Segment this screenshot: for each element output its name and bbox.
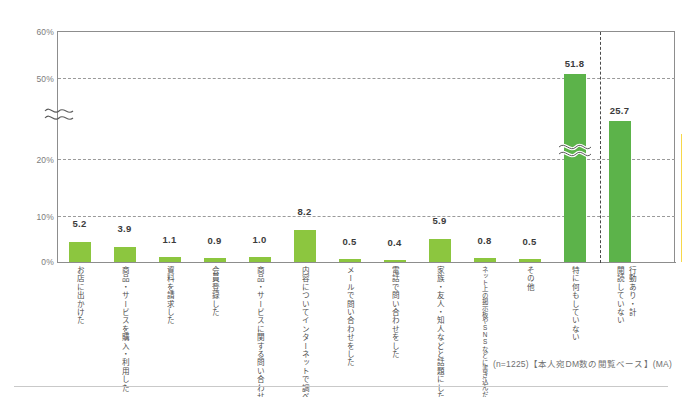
category-text-3: 会員登録した	[210, 266, 220, 316]
bottom-divider	[14, 386, 668, 387]
bar-slot-7[interactable]: 0.4	[372, 31, 417, 262]
footnote: (n=1225)【本人宛DM数の閲覧ベース】(MA)	[493, 357, 672, 369]
bar-2[interactable]	[159, 257, 181, 262]
bar-4[interactable]	[249, 257, 271, 262]
category-text-9: ネット上の掲示板やSNSなどに書き込んだ（FacebookやTwitterなど）	[480, 266, 488, 397]
bar-slot-8[interactable]: 5.9	[417, 31, 462, 262]
bar-value-3: 0.9	[208, 235, 222, 246]
category-label-1: 商品・サービスを購入・利用した	[102, 266, 147, 366]
chart-container: 60% 50% 20% 10% 0% 5.2 3.9 1.1	[0, 0, 682, 397]
bar-group: 5.2 3.9 1.1 0.9 1.0 8.2 0.5 0.4	[57, 31, 675, 262]
bar-value-8: 5.9	[433, 215, 447, 226]
category-text-11: 特に何もしていない	[570, 266, 580, 342]
x-axis-baseline	[57, 262, 676, 263]
bar-7[interactable]	[384, 260, 406, 262]
category-text-10: その他	[525, 266, 535, 291]
bar-value-5: 8.2	[298, 206, 312, 217]
category-label-10: その他	[507, 266, 552, 366]
bar-value-0: 5.2	[73, 218, 87, 229]
bar-0[interactable]	[69, 242, 91, 262]
category-text-4: 商品・サービスに関する問い合わせをした	[255, 266, 265, 397]
bar-value-6: 0.5	[343, 236, 357, 247]
bar-slot-11[interactable]: 51.8	[552, 31, 597, 262]
bar-value-11: 51.8	[565, 58, 584, 69]
category-text-8: 家族・友人・知人などと話題にした	[435, 266, 445, 397]
y-tick-60-label: 60%	[2, 27, 54, 37]
bar-10[interactable]	[519, 259, 541, 262]
bar-slot-4[interactable]: 1.0	[237, 31, 282, 262]
y-tick-20-label: 20%	[2, 155, 54, 165]
bar-value-4: 1.0	[253, 234, 267, 245]
category-label-7: 電話で問い合わせをした	[372, 266, 417, 366]
category-label-3: 会員登録した	[192, 266, 237, 366]
bar-value-9: 0.8	[478, 235, 492, 246]
category-text-1: 商品・サービスを購入・利用した	[120, 266, 130, 392]
category-label-5: 内容についてインターネットで調べた	[282, 266, 327, 366]
category-label-11: 特に何もしていない	[552, 266, 597, 366]
bar-slot-9[interactable]: 0.8	[462, 31, 507, 262]
category-label-9: ネット上の掲示板やSNSなどに書き込んだ（FacebookやTwitterなど）	[462, 266, 507, 366]
category-text-13: 行動あり・計	[627, 266, 637, 316]
bar-1[interactable]	[114, 247, 136, 262]
category-labels: お店に出かけた 商品・サービスを購入・利用した 資料を請求した 会員登録した 商…	[57, 266, 675, 366]
category-label-0: お店に出かけた	[57, 266, 102, 366]
bar-value-7: 0.4	[388, 237, 402, 248]
bar-slot-1[interactable]: 3.9	[102, 31, 147, 262]
category-label-2: 資料を請求した	[147, 266, 192, 366]
category-text-0: お店に出かけた	[75, 266, 85, 325]
bar-slot-0[interactable]: 5.2	[57, 31, 102, 262]
category-text-12: 閲読していない	[615, 266, 625, 325]
bar-slot-10[interactable]: 0.5	[507, 31, 552, 262]
bar-9[interactable]	[474, 258, 496, 262]
category-text-6: メールで問い合わせをした	[345, 266, 355, 367]
bar-value-10: 0.5	[523, 236, 537, 247]
bar-3[interactable]	[204, 258, 226, 262]
bar-6[interactable]	[339, 259, 361, 262]
bar-5[interactable]	[294, 230, 316, 262]
bar-value-2: 1.1	[163, 234, 177, 245]
category-label-8: 家族・友人・知人などと話題にした	[417, 266, 462, 366]
category-label-6: メールで問い合わせをした	[327, 266, 372, 366]
category-label-4: 商品・サービスに関する問い合わせをした	[237, 266, 282, 366]
bar-slot-3[interactable]: 0.9	[192, 31, 237, 262]
category-label-13: 行動あり・計	[627, 266, 682, 366]
bar-slot-5[interactable]: 8.2	[282, 31, 327, 262]
category-text-5: 内容についてインターネットで調べた	[300, 266, 310, 397]
y-tick-50-label: 50%	[2, 74, 54, 84]
y-tick-0-label: 0%	[2, 257, 54, 267]
bar-slot-6[interactable]: 0.5	[327, 31, 372, 262]
bar-slot-2[interactable]: 1.1	[147, 31, 192, 262]
bar-value-1: 3.9	[118, 223, 132, 234]
bar-8[interactable]	[429, 239, 451, 262]
bar-slot-13[interactable]: 22.4	[627, 31, 682, 262]
category-text-2: 資料を請求した	[165, 266, 175, 325]
bar-11[interactable]	[564, 74, 586, 262]
category-text-7: 電話で問い合わせをした	[390, 266, 400, 358]
y-tick-10-label: 10%	[2, 212, 54, 222]
